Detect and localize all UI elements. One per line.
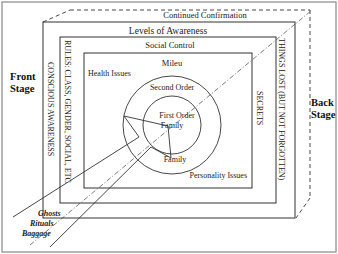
social-control-label: Social Control — [145, 40, 195, 50]
front-stage-label-line1: Front — [10, 71, 36, 82]
conscious-awareness-label: CONSCIOUS AWARENESS — [46, 62, 55, 156]
second-order-label: Second Order — [150, 83, 195, 92]
back-stage-label-line1: Back — [311, 97, 334, 108]
continued-confirmation-label: Continued Confirmation — [163, 10, 247, 20]
baggage-label: Baggage — [21, 229, 51, 238]
front-stage-label-line2: Stage — [10, 83, 35, 94]
personality-issues-label: Personality Issues — [189, 171, 247, 180]
diagram-canvas: Continued Confirmation Levels of Awarene… — [0, 0, 338, 254]
first-order-label: First Order — [159, 111, 195, 120]
health-issues-label: Health Issues — [88, 69, 131, 78]
levels-of-awareness-label: Levels of Awareness — [129, 26, 208, 36]
mileu-label: Mileu — [162, 58, 183, 68]
rules-class-gender-label: RULES: CLASS, GENDER, SOCIAL, ETC — [63, 40, 72, 183]
family-label: Family — [164, 155, 187, 164]
front-back-stage-diagram: Continued Confirmation Levels of Awarene… — [0, 0, 338, 254]
secrets-label: SECRETS — [255, 91, 264, 125]
things-lost-label: THINGS LOST (BUT NOT FORGOTTEN) — [277, 38, 286, 181]
rituals-label: Rituals — [29, 219, 54, 228]
ghosts-label: Ghosts — [38, 209, 61, 218]
back-stage-label-line2: Stage — [311, 109, 336, 120]
first-order-family-label: Family — [161, 121, 184, 130]
